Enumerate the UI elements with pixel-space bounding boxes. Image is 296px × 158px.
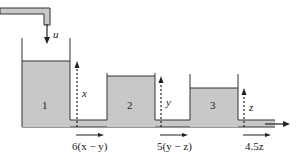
level-arrow-x-icon bbox=[75, 61, 80, 127]
flow-label-1: 6(x − y) bbox=[72, 141, 108, 152]
inflow-label: u bbox=[53, 29, 59, 40]
tank-1-label: 1 bbox=[42, 100, 48, 111]
flow-arrow-1-icon bbox=[76, 133, 104, 137]
flow-arrow-3-icon bbox=[243, 133, 271, 137]
tank-diagram bbox=[0, 0, 296, 158]
tank-2-label: 2 bbox=[127, 100, 133, 111]
level-label-x: x bbox=[82, 88, 87, 99]
level-arrow-y-icon bbox=[159, 76, 164, 127]
tank-3-label: 3 bbox=[210, 100, 216, 111]
flow-label-2: 5(y − z) bbox=[157, 141, 192, 152]
inflow-pipe bbox=[0, 8, 50, 25]
flow-arrow-2-icon bbox=[160, 133, 188, 137]
tank-1 bbox=[22, 38, 70, 127]
level-label-z: z bbox=[249, 102, 253, 113]
flow-label-3: 4.5z bbox=[245, 141, 264, 152]
inflow-arrow-icon bbox=[44, 24, 50, 44]
level-label-y: y bbox=[166, 97, 171, 108]
